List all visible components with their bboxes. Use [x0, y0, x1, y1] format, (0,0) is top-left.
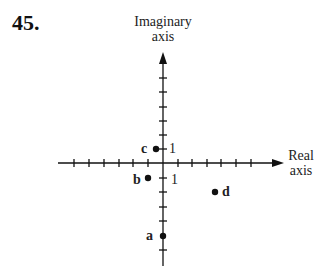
point-b [145, 175, 151, 181]
imaginary-axis-arrow-icon [159, 52, 167, 64]
point-c-label: c [141, 141, 147, 156]
real-axis-arrow-icon [272, 159, 284, 167]
complex-plane [0, 0, 320, 280]
real-unit-label: 1 [171, 172, 178, 187]
imag-unit-label: 1 [169, 141, 176, 156]
point-b-label: b [133, 172, 141, 187]
point-c [153, 146, 159, 152]
point-d [212, 189, 218, 195]
point-a [160, 233, 166, 239]
point-a-label: a [146, 228, 153, 243]
point-d-label: d [222, 184, 230, 199]
